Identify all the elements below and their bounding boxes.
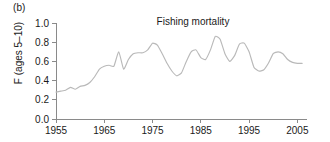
x-axis-ticks: 195519651975198519952005 bbox=[45, 119, 309, 136]
y-tick-label: 0.0 bbox=[35, 114, 49, 125]
y-tick-label: 0.2 bbox=[35, 94, 49, 105]
figure-panel-b: (b) Fishing mortality F (ages 5–10) 0.00… bbox=[0, 0, 330, 142]
x-tick-label: 1975 bbox=[141, 125, 164, 136]
y-tick-label: 1.0 bbox=[35, 18, 49, 29]
y-tick-label: 0.8 bbox=[35, 37, 49, 48]
y-axis-ticks: 0.00.20.40.60.81.0 bbox=[35, 18, 56, 125]
x-tick-label: 1995 bbox=[238, 125, 261, 136]
y-tick-label: 0.4 bbox=[35, 75, 49, 86]
line-chart-plot: 0.00.20.40.60.81.0 195519651975198519952… bbox=[0, 0, 330, 142]
x-tick-label: 1965 bbox=[93, 125, 116, 136]
x-tick-label: 1955 bbox=[45, 125, 68, 136]
x-tick-label: 1985 bbox=[190, 125, 213, 136]
y-tick-label: 0.6 bbox=[35, 56, 49, 67]
data-series-fishing-mortality bbox=[56, 36, 302, 92]
x-tick-label: 2005 bbox=[286, 125, 309, 136]
